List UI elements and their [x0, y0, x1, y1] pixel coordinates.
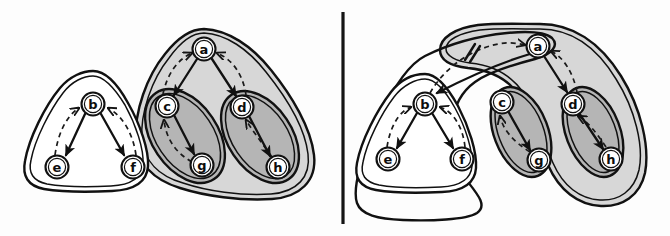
node-h[interactable]: h: [267, 156, 290, 179]
node-h[interactable]: h: [600, 148, 623, 171]
node-b[interactable]: b: [414, 93, 437, 116]
node-e[interactable]: e: [46, 156, 69, 179]
node-d[interactable]: d: [231, 96, 254, 119]
node-f[interactable]: f: [451, 148, 474, 171]
node-a[interactable]: a: [527, 35, 550, 58]
node-c[interactable]: c: [156, 95, 179, 118]
diagram-figure: b e f a c d g: [0, 0, 670, 236]
node-a[interactable]: a: [193, 38, 216, 61]
diagram-canvas: b e f a c d g: [0, 0, 670, 236]
node-f[interactable]: f: [122, 156, 145, 179]
node-d[interactable]: d: [562, 93, 585, 116]
node-e[interactable]: e: [377, 148, 400, 171]
node-c[interactable]: c: [491, 91, 514, 114]
node-g[interactable]: g: [528, 149, 551, 172]
node-b[interactable]: b: [82, 93, 105, 116]
node-g[interactable]: g: [191, 154, 214, 177]
